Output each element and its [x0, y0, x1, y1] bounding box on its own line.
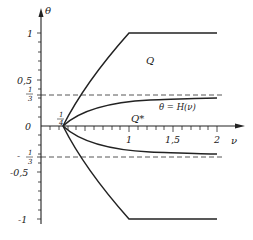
- y-tick-label-third-den: 3: [28, 95, 33, 103]
- quarter-label-den: 4: [58, 119, 63, 127]
- x-axis-label: ν: [231, 135, 237, 146]
- h-curve-mirror: [63, 126, 217, 154]
- y-tick-label-0-5: 0,5: [17, 75, 32, 86]
- y-tick-label-third-num: 1: [28, 86, 32, 94]
- x-tick-label-1-5: 1,5: [165, 134, 180, 145]
- y-tick-label-neg-third-num: 1: [28, 149, 32, 157]
- y-axis-ticks: [37, 33, 41, 219]
- region-q-label: Q: [146, 55, 154, 66]
- region-qstar-label: Q*: [131, 113, 144, 124]
- y-tick-label-neg-0-5: -0,5: [10, 167, 28, 178]
- y-tick-label-neg-third-sign: -: [17, 150, 20, 161]
- y-tick-label-1: 1: [27, 28, 33, 39]
- y-tick-label-neg-1: -1: [18, 214, 27, 225]
- x-tick-label-1: 1: [126, 134, 132, 145]
- h-curve-label: θ = H(ν): [159, 102, 196, 112]
- x-axis-ticks: [50, 126, 217, 132]
- diagram-canvas: θ 1 0,5 1 3 0 - 1 3 -0,5 -1 1 4 1 1,5 2 …: [0, 0, 253, 240]
- y-axis-label: θ: [45, 5, 51, 16]
- y-axis-arrow-icon: [39, 8, 44, 17]
- quarter-label-num: 1: [59, 111, 63, 119]
- y-tick-label-neg-third-den: 3: [28, 158, 33, 166]
- x-axis-arrow-icon: [235, 124, 245, 129]
- x-tick-label-2: 2: [213, 134, 220, 145]
- y-tick-label-0: 0: [25, 121, 31, 132]
